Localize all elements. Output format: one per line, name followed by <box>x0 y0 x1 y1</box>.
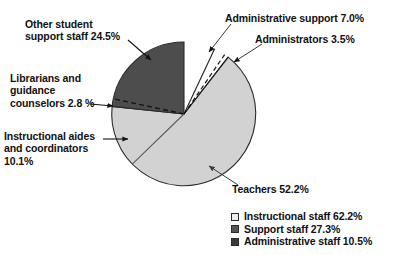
leader-admin-support <box>209 24 231 52</box>
slice-support-admin-group <box>112 42 184 114</box>
legend-label-administrative-staff: Administrative staff 10.5% <box>244 236 372 247</box>
label-librarians-guidance-counselors: Librarians and guidance counselors 2.8 % <box>10 72 94 109</box>
label-instructional-aides-coordinators: Instructional aides and coordinators 10.… <box>4 130 95 167</box>
leader-administrators <box>234 44 262 62</box>
legend-label-support-staff: Support staff 27.3% <box>244 224 340 235</box>
legend-label-instructional-staff: Instructional staff 62.2% <box>244 211 362 222</box>
label-teachers: Teachers 52.2% <box>232 183 309 195</box>
label-other-student-support-staff: Other student support staff 24.5% <box>25 18 120 43</box>
legend-swatch-instructional-staff <box>231 213 239 221</box>
legend-swatch-support-staff <box>231 225 239 233</box>
label-administrators: Administrators 3.5% <box>255 33 355 45</box>
legend-swatch-administrative-staff <box>231 238 239 246</box>
legend-item-administrative-staff: Administrative staff 10.5% <box>231 236 372 247</box>
pie-chart-figure: Other student support staff 24.5% Librar… <box>0 0 393 255</box>
chart-legend: Instructional staff 62.2% Support staff … <box>231 211 372 247</box>
label-administrative-support: Administrative support 7.0% <box>225 12 364 24</box>
legend-item-support-staff: Support staff 27.3% <box>231 224 372 235</box>
legend-item-instructional-staff: Instructional staff 62.2% <box>231 211 372 222</box>
